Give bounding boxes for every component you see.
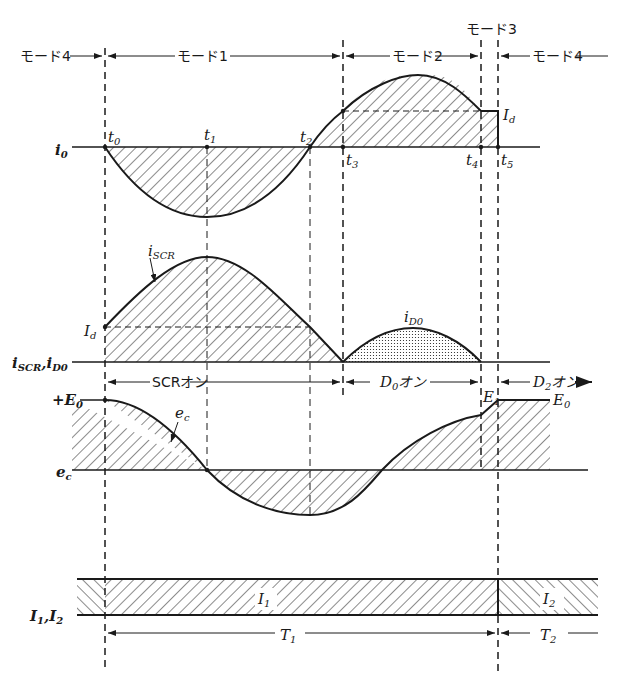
ec-axis-label: ec — [56, 463, 72, 482]
mode4-left-label: モード4 — [20, 48, 71, 64]
d0-on-label: D0オン — [379, 373, 427, 392]
e0-label: E0 — [552, 391, 571, 410]
t0-label: t0 — [108, 128, 121, 147]
id0-curve-label: iD0 — [404, 308, 424, 327]
ec-waveform: +E0 ec ec E1 E0 — [52, 388, 588, 515]
iscr-id-label: Id — [83, 322, 96, 341]
d2-on-label: D2オン — [532, 373, 580, 392]
i0-waveform: i0 Id t0 t1 t2 t3 t4 t5 — [55, 75, 540, 217]
i1-i2-axis-label: I1,I2 — [29, 607, 63, 626]
ec-curve-label: ec — [175, 404, 190, 423]
mode2-label: モード2 — [392, 48, 443, 64]
mode4-right-label: モード4 — [532, 48, 583, 64]
i1-i2-bars: I1 I2 I1,I2 T1 T2 — [29, 579, 598, 645]
t3-label: t3 — [346, 151, 358, 170]
iscr-curve-label: iSCR — [148, 242, 175, 261]
t1-period-label: T1 — [280, 626, 296, 645]
mode1-label: モード1 — [177, 48, 228, 64]
scr-on-label: SCRオン — [152, 374, 208, 390]
t5-label: t5 — [501, 151, 513, 170]
mode-header: モード4 モード1 モード2 モード3 モード4 — [20, 21, 608, 64]
t2-period-label: T2 — [540, 626, 556, 645]
t4-label: t4 — [466, 151, 478, 170]
commutation-waveform-diagram: モード4 モード1 モード2 モード3 モード4 i0 Id t0 t1 t2 … — [0, 0, 624, 677]
iscr-waveform: iSCR Id iD0 iSCR,iD0 SCRオン D0オン D2オン — [12, 242, 592, 392]
mode3-label: モード3 — [466, 21, 517, 37]
id-level-label: Id — [502, 106, 515, 125]
t1-label: t1 — [204, 126, 216, 145]
i0-axis-label: i0 — [55, 141, 68, 160]
iscr-axis-label: iSCR,iD0 — [12, 354, 68, 373]
t2-label: t2 — [300, 128, 312, 147]
plus-e0-label: +E0 — [52, 391, 83, 410]
